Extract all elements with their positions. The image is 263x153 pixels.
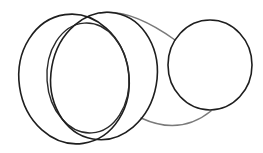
top-connector-curve — [100, 12, 175, 40]
sketch-drawing — [0, 0, 263, 153]
sketch-canvas — [0, 0, 263, 153]
small-circle — [168, 20, 252, 110]
bottom-connector-curve — [141, 111, 211, 126]
